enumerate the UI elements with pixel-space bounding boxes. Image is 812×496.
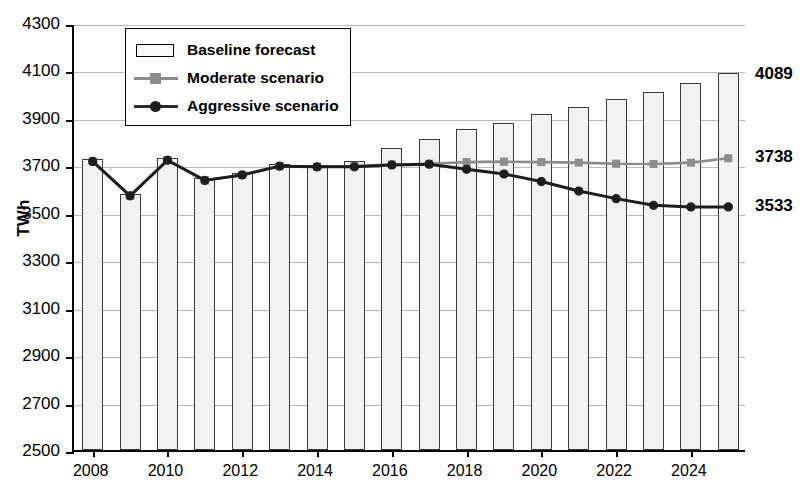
x-axis-tick [467,450,469,457]
bar [120,194,141,450]
bar [531,114,552,450]
x-axis-tick-label: 2010 [135,462,195,480]
bar [718,73,739,450]
bar [157,158,178,450]
chart-container: TWh 250027002900310033003500370039004100… [0,0,812,496]
y-axis-tick [66,120,74,122]
x-axis-tick-label: 2022 [584,462,644,480]
legend-label-baseline-forecast: Baseline forecast [187,41,315,59]
bar [307,165,328,450]
bar [493,123,514,450]
gridline [74,25,745,26]
bar [568,107,589,450]
x-axis-tick [93,450,95,457]
y-axis-tick [66,167,74,169]
line-path [93,158,729,195]
line-series-aggressive-scenario [89,156,733,211]
y-axis-tick [66,405,74,407]
y-axis-tick-label: 2700 [0,394,60,414]
bar [680,83,701,450]
legend-swatch-moderate-line-icon [134,70,178,86]
bar [643,92,664,450]
x-axis-tick-label: 2024 [659,462,719,480]
y-axis-tick [66,215,74,217]
x-axis-tick [242,450,244,457]
x-axis-tick-label: 2016 [360,462,420,480]
legend-item-moderate-scenario: Moderate scenario [134,64,342,92]
y-axis-tick-label: 3500 [0,204,60,224]
bar [419,139,440,450]
y-axis-tick [66,452,74,454]
y-axis-tick-label: 4100 [0,61,60,81]
end-value-label: 3533 [755,196,793,216]
bar [82,159,103,450]
x-axis-tick-label: 2012 [210,462,270,480]
y-axis-tick-label: 3700 [0,156,60,176]
bar [269,164,290,450]
end-value-label: 3738 [755,147,793,167]
legend-item-baseline-forecast: Baseline forecast [134,36,342,64]
x-axis-tick-label: 2008 [61,462,121,480]
legend-swatch-bar-icon [134,42,178,58]
y-axis-tick [66,72,74,74]
y-axis-tick [66,310,74,312]
x-axis-tick [392,450,394,457]
x-axis-tick-label: 2014 [285,462,345,480]
y-axis-tick-label: 2900 [0,346,60,366]
legend-item-aggressive-scenario: Aggressive scenario [134,92,342,120]
legend-label-moderate-scenario: Moderate scenario [187,69,324,87]
end-value-label: 4089 [755,64,793,84]
x-axis-tick [541,450,543,457]
bar [456,129,477,450]
x-axis-tick [691,450,693,457]
legend-swatch-aggressive-line-icon [134,98,178,114]
x-axis-tick-label: 2020 [509,462,569,480]
y-axis-tick [66,262,74,264]
bar [194,178,215,450]
y-axis-tick-label: 2500 [0,441,60,461]
legend-label-aggressive-scenario: Aggressive scenario [187,97,339,115]
chart-legend: Baseline forecast Moderate scenario Aggr… [125,28,351,126]
y-axis-tick-label: 4300 [0,14,60,34]
x-axis-tick [317,450,319,457]
bar [606,99,627,450]
y-axis-tick-label: 3300 [0,251,60,271]
bar [232,173,253,450]
line-series-moderate-scenario [89,155,732,199]
bar [381,148,402,450]
x-axis-tick [167,450,169,457]
y-axis-tick-label: 3100 [0,299,60,319]
y-axis-tick [66,357,74,359]
y-axis-tick [66,25,74,27]
x-axis-tick-label: 2018 [435,462,495,480]
x-axis-tick [616,450,618,457]
y-axis-tick-label: 3900 [0,109,60,129]
bar [344,161,365,450]
